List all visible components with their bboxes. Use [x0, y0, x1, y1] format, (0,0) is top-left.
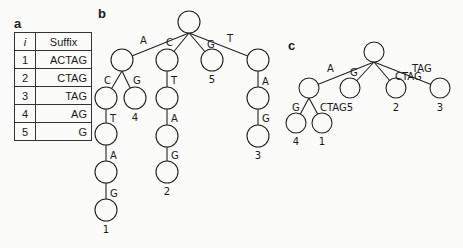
edge-label: A	[327, 63, 334, 74]
leaf-label: 3	[437, 102, 443, 113]
leaf-label: 4	[293, 136, 299, 147]
edge-label: G	[171, 150, 179, 161]
leaf-label: 3	[255, 150, 261, 161]
leaf-label: 2	[393, 102, 399, 113]
leaf-label: 5	[347, 102, 353, 113]
edge-label: G	[110, 188, 118, 199]
edge-label: T	[170, 75, 178, 86]
edge-label: A	[110, 150, 117, 161]
trees-diagram: A C G T C G T A G T A G A G 1 2 3 4 5	[0, 0, 463, 248]
edge-label: C	[166, 37, 173, 48]
leaf-label: 5	[209, 74, 215, 85]
panel-c-nodes	[286, 42, 450, 133]
leaf-label: 1	[103, 224, 109, 235]
edge-label: T	[226, 33, 234, 44]
edge-label: TAG	[411, 63, 432, 74]
edge-label: G	[292, 102, 300, 113]
leaf-label: 2	[164, 186, 170, 197]
edge-label: CTAG	[320, 102, 347, 113]
edge-label: A	[262, 76, 269, 87]
edge-label: G	[262, 113, 270, 124]
panel-b-nodes	[95, 11, 269, 221]
leaf-label: 1	[319, 136, 325, 147]
leaf-label: 4	[132, 112, 138, 123]
edge-label: G	[207, 39, 215, 50]
edge-label: A	[171, 113, 178, 124]
edge-label: C	[104, 75, 111, 86]
edge-label: G	[350, 67, 358, 78]
edge-label: A	[140, 35, 147, 46]
edge-label: T	[109, 113, 117, 124]
edge-label: G	[133, 75, 141, 86]
